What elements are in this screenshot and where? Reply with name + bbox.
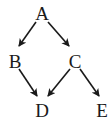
edge-b-d (19, 69, 37, 96)
node-b: B (9, 51, 22, 72)
edges (19, 22, 99, 96)
graph-diagram: A B C D E (0, 0, 111, 123)
edge-a-b (19, 22, 36, 46)
node-d: D (35, 100, 49, 121)
node-e: E (96, 100, 108, 121)
edge-c-e (80, 69, 99, 96)
node-a: A (35, 3, 49, 24)
edge-c-d (48, 69, 70, 96)
nodes: A B C D E (9, 3, 108, 121)
edge-a-c (48, 22, 69, 46)
node-c: C (69, 51, 82, 72)
